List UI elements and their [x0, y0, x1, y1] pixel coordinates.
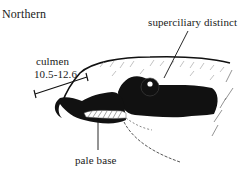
- black-mask: [118, 76, 218, 117]
- throat-line: [124, 122, 180, 162]
- eye-highlight: [147, 81, 152, 86]
- culmen-label: culmen: [36, 55, 69, 67]
- bird-head-figure: Northern superciliary distinct culmen 10…: [0, 0, 247, 178]
- pale-base-label: pale base: [75, 154, 117, 166]
- eye-ring: [141, 78, 159, 96]
- chin-line: [126, 118, 152, 130]
- superciliary-label: superciliary distinct: [148, 16, 237, 28]
- culmen-range-label: 10.5-12.6: [34, 68, 77, 80]
- crown-hatching: [100, 60, 224, 80]
- beak: [55, 92, 126, 123]
- superciliary-leader: [164, 31, 188, 78]
- figure-title: Northern: [2, 8, 46, 20]
